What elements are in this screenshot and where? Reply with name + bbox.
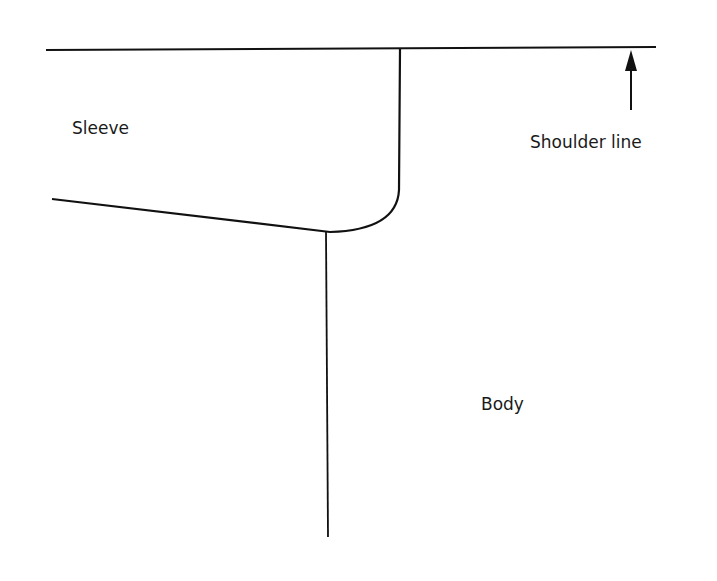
body-label: Body (481, 396, 524, 413)
sleeve-outline (52, 49, 400, 232)
sleeve-label: Sleeve (72, 120, 129, 137)
shoulder-line-label: Shoulder line (530, 134, 642, 151)
shoulder-line (46, 47, 656, 50)
side-seam-line (326, 232, 328, 537)
diagram-canvas (0, 0, 717, 581)
arrow-up-icon (625, 50, 637, 71)
